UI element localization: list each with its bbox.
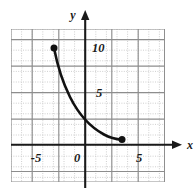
curve-start-point	[51, 45, 58, 52]
y-tick-label-5: 5	[96, 86, 102, 100]
x-axis	[11, 141, 182, 149]
x-axis-label: x	[186, 138, 193, 152]
x-tick-label-neg5: -5	[31, 151, 41, 165]
y-tick-label-10: 10	[92, 41, 105, 55]
graph-figure: y x -5 0 5 5 10	[0, 0, 195, 189]
x-tick-label-0: 0	[74, 151, 81, 165]
x-tick-label-5: 5	[136, 151, 142, 165]
curve-end-point	[119, 136, 126, 143]
y-axis	[81, 10, 89, 188]
y-axis-label: y	[68, 8, 76, 22]
coordinate-plane: y x -5 0 5 5 10	[0, 0, 195, 189]
